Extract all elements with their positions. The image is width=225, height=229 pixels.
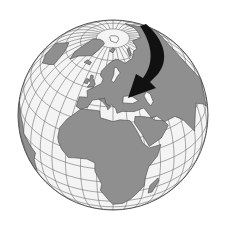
globe-map	[0, 0, 225, 229]
globe-svg	[0, 0, 225, 229]
